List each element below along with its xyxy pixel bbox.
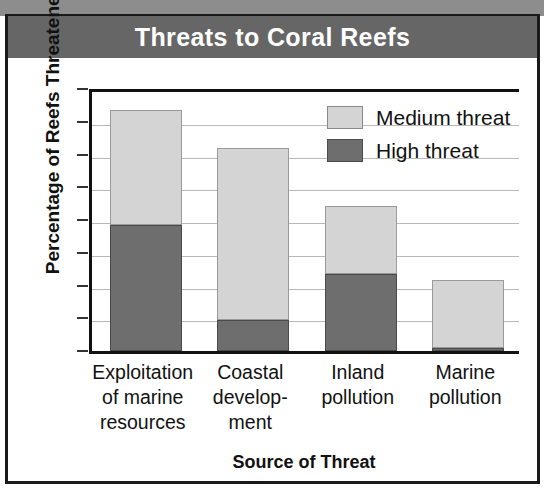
x-category-label-line: pollution (304, 385, 412, 410)
x-category-label-line: Inland (304, 360, 412, 385)
bar-segment-medium-threat (110, 110, 182, 225)
bar-segment-medium-threat (432, 280, 504, 347)
x-category-label: Inlandpollution (304, 360, 412, 410)
bar-segment-medium-threat (217, 148, 289, 320)
y-tick-mark (77, 285, 88, 287)
x-category-label-line: Marine (412, 360, 520, 385)
bar-group (110, 89, 182, 351)
bar-segment-high-threat (325, 274, 397, 351)
legend-item-medium-threat: Medium threat (327, 101, 510, 134)
x-category-label: Marinepollution (412, 360, 520, 410)
bar-group (217, 89, 289, 351)
bar-segment-high-threat (110, 225, 182, 351)
x-category-label-line: of marine (89, 385, 197, 410)
x-category-label: Exploitationof marineresources (89, 360, 197, 435)
x-category-label-line: Exploitation (89, 360, 197, 385)
bar-segment-high-threat (217, 320, 289, 351)
y-tick-mark (77, 317, 88, 319)
y-tick-mark (77, 252, 88, 254)
y-tick-mark (77, 154, 88, 156)
y-axis-title: Percentage of Reefs Threatened (42, 0, 64, 294)
legend-item-high-threat: High threat (327, 134, 510, 167)
x-category-label-line: pollution (412, 385, 520, 410)
y-tick-mark (77, 219, 88, 221)
stacked-bar (110, 89, 182, 351)
legend-swatch-high-icon (327, 139, 363, 162)
x-axis-title: Source of Threat (89, 452, 519, 473)
bar-segment-medium-threat (325, 206, 397, 275)
legend-label-high: High threat (376, 139, 479, 163)
bar-segment-high-threat (432, 348, 504, 351)
x-category-label-line: resources (89, 410, 197, 435)
x-category-label: Coastaldevelop-ment (197, 360, 305, 435)
y-tick-mark (77, 88, 88, 90)
x-category-label-line: develop- (197, 385, 305, 410)
coral-reef-threat-chart: Threats to Coral Reefs Percentage of Ree… (0, 0, 544, 488)
chart-title: Threats to Coral Reefs (135, 23, 411, 52)
x-category-label-line: Coastal (197, 360, 305, 385)
y-tick-mark (77, 350, 88, 352)
y-tick-mark (77, 186, 88, 188)
legend-swatch-medium-icon (327, 106, 363, 129)
y-tick-mark (77, 121, 88, 123)
stacked-bar (217, 89, 289, 351)
chart-title-banner: Threats to Coral Reefs (8, 16, 537, 58)
legend-label-medium: Medium threat (376, 106, 510, 130)
chart-legend: Medium threat High threat (327, 101, 510, 167)
x-category-label-line: ment (197, 410, 305, 435)
